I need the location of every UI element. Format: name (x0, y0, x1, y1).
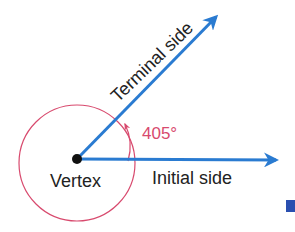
vertex-label: Vertex (50, 171, 101, 191)
angle-arc (125, 124, 130, 161)
initial-side-label: Initial side (152, 168, 232, 188)
terminal-side-label: Terminal side (107, 18, 197, 106)
corner-marker (286, 200, 295, 212)
angle-diagram: Terminal side 405° Vertex Initial side (0, 0, 295, 232)
vertex-point (72, 154, 82, 164)
angle-label: 405° (142, 124, 177, 143)
initial-side-ray (77, 159, 276, 160)
